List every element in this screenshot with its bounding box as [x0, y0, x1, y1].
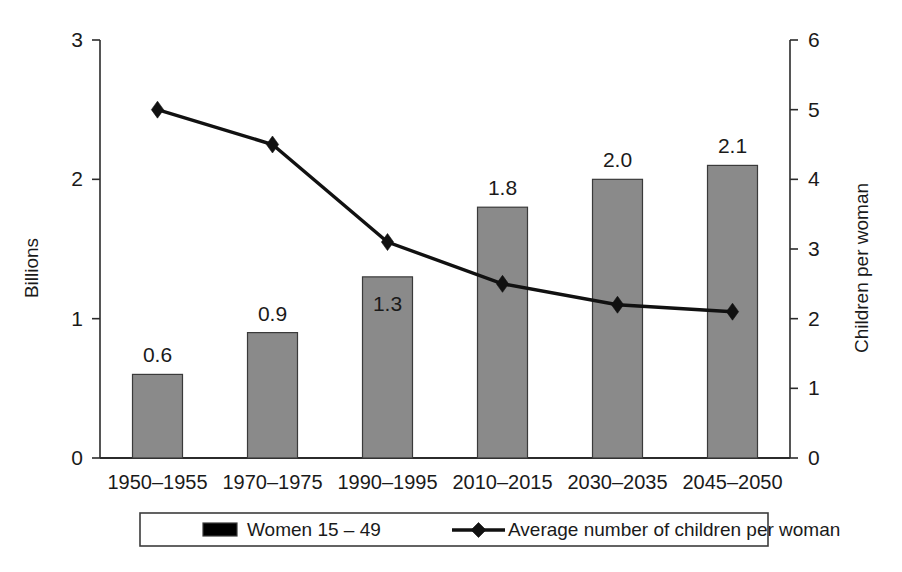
- category-label: 1970–1975: [222, 471, 322, 493]
- category-label: 2030–2035: [567, 471, 667, 493]
- bar-value-label: 0.6: [143, 343, 172, 366]
- left-tick-label: 0: [71, 446, 83, 469]
- bar-value-label: 0.9: [258, 302, 287, 325]
- bar-value-label: 2.1: [718, 134, 747, 157]
- right-tick-label: 6: [808, 28, 820, 51]
- left-axis-ticks: 0123: [71, 28, 100, 469]
- category-label: 1990–1995: [337, 471, 437, 493]
- left-axis: 0123 Billions: [21, 28, 100, 469]
- data-point-marker: [266, 136, 278, 153]
- bar: [248, 333, 298, 458]
- legend-diamond-icon: [471, 523, 486, 538]
- chart-canvas: 0123 Billions 0123456 Children per woman…: [0, 0, 902, 572]
- line-series-children-per-woman: [151, 101, 738, 320]
- chart-container: 0123 Billions 0123456 Children per woman…: [0, 0, 902, 572]
- data-point-marker: [151, 101, 163, 118]
- left-tick-label: 3: [71, 28, 83, 51]
- bar: [478, 207, 528, 458]
- bar-value-labels: 0.60.91.31.82.02.1: [143, 134, 747, 366]
- legend-label-bar: Women 15 – 49: [247, 519, 381, 540]
- right-tick-label: 5: [808, 98, 820, 121]
- bar-series-women-15-49: [133, 165, 758, 458]
- legend-swatch-bar: [203, 523, 237, 536]
- right-tick-label: 2: [808, 307, 820, 330]
- right-tick-label: 0: [808, 446, 820, 469]
- data-point-marker: [381, 234, 393, 251]
- right-tick-label: 4: [808, 167, 820, 190]
- bar-value-label: 1.8: [488, 176, 517, 199]
- left-axis-title: Billions: [21, 238, 42, 298]
- bar: [593, 179, 643, 458]
- right-tick-label: 1: [808, 376, 820, 399]
- right-tick-label: 3: [808, 237, 820, 260]
- chart-legend: Women 15 – 49 Average number of children…: [140, 513, 840, 546]
- category-label: 2010–2015: [452, 471, 552, 493]
- left-tick-label: 1: [71, 307, 83, 330]
- bar-value-label: 2.0: [603, 148, 632, 171]
- legend-label-line: Average number of children per woman: [508, 519, 840, 540]
- left-tick-label: 2: [71, 167, 83, 190]
- bar-value-label: 1.3: [373, 292, 402, 315]
- bar: [133, 374, 183, 458]
- right-axis-title: Children per woman: [851, 183, 872, 353]
- category-label: 2045–2050: [682, 471, 782, 493]
- category-axis-labels: 1950–19551970–19751990–19952010–20152030…: [107, 471, 782, 493]
- right-axis: 0123456 Children per woman: [790, 28, 872, 469]
- right-axis-ticks: 0123456: [790, 28, 820, 469]
- trend-line: [158, 110, 733, 312]
- category-label: 1950–1955: [107, 471, 207, 493]
